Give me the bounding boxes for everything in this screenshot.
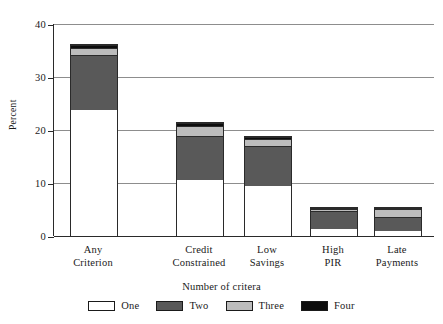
bar-low-savings: [244, 136, 292, 236]
legend-label-one: One: [121, 300, 139, 311]
bar-segment-two: [71, 55, 117, 110]
bar-segment-three: [177, 126, 223, 137]
plot-area: 40 30 20 10 0: [53, 24, 433, 236]
bar-segment-three: [245, 139, 291, 146]
legend-swatch-two-icon: [156, 301, 183, 311]
category-label-late-payments: Late Payments: [351, 244, 443, 269]
bar-segment-one: [71, 110, 117, 236]
tick-mark-10: [48, 184, 54, 185]
y-tick-label-30: 30: [35, 73, 46, 84]
legend-item-one: One: [88, 300, 139, 311]
tick-mark-0: [48, 237, 54, 238]
legend-swatch-three-icon: [226, 301, 253, 311]
bar-high-pir: [310, 207, 358, 236]
x-axis-title: Number of critera: [0, 281, 443, 292]
bar-segment-two: [245, 146, 291, 185]
bar-late-payments: [374, 207, 422, 236]
y-axis-title: Percent: [8, 99, 18, 130]
stacked-bar-chart: Percent 40 30 20 10 0 Any Criterion Cred…: [0, 0, 443, 324]
y-tick-label-10: 10: [35, 179, 46, 190]
legend-swatch-four-icon: [301, 301, 328, 311]
category-label-any-criterion: Any Criterion: [47, 244, 139, 269]
bar-segment-two: [177, 136, 223, 180]
legend-item-two: Two: [156, 300, 208, 311]
legend-item-three: Three: [226, 300, 284, 311]
legend-swatch-one-icon: [88, 301, 115, 311]
bar-segment-two: [375, 217, 421, 231]
bar-segment-one: [375, 231, 421, 236]
legend-item-four: Four: [301, 300, 355, 311]
y-tick-label-40: 40: [35, 20, 46, 31]
legend: One Two Three Four: [0, 300, 443, 311]
bar-any-criterion: [70, 44, 118, 236]
bar-segment-three: [375, 209, 421, 217]
bar-segment-one: [311, 229, 357, 236]
bar-segment-one: [245, 186, 291, 236]
bar-segment-one: [177, 180, 223, 236]
bar-segment-two: [311, 211, 357, 229]
x-axis-baseline: 0: [54, 236, 434, 237]
legend-label-three: Three: [259, 300, 284, 311]
bar-segment-three: [71, 48, 117, 55]
bar-credit-constrained: [176, 122, 224, 236]
gridline-40: 40: [54, 24, 434, 25]
y-tick-label-20: 20: [35, 126, 46, 137]
legend-label-four: Four: [334, 300, 355, 311]
legend-label-two: Two: [189, 300, 208, 311]
y-tick-label-0: 0: [41, 232, 46, 243]
tick-mark-40: [48, 25, 54, 26]
tick-mark-30: [48, 78, 54, 79]
tick-mark-20: [48, 131, 54, 132]
